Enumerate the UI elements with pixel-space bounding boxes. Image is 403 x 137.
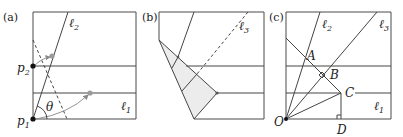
point-p1: [30, 116, 35, 121]
fold-point-dot: [215, 91, 218, 94]
origami-construction-figure: (a) θ p2 p1 ℓ2 ℓ1 (b): [0, 0, 403, 137]
panel-b-label: (b): [142, 11, 158, 24]
grey-dot-p1-image: [87, 90, 92, 95]
panel-a: (a) θ p2 p1 ℓ2 ℓ1: [3, 11, 136, 130]
label-p1: p1: [17, 114, 30, 130]
right-angle-marker-D: [337, 115, 341, 119]
label-l1: ℓ1: [374, 99, 384, 115]
theta-label: θ: [46, 100, 54, 114]
label-C: C: [345, 86, 354, 100]
label-l1: ℓ1: [121, 99, 131, 115]
point-p2: [30, 63, 35, 68]
label-l2: ℓ2: [322, 17, 332, 33]
panel-c: (c) ℓ2 ℓ3 ℓ1 A B C O D: [269, 11, 391, 137]
panel-a-label: (a): [3, 11, 18, 24]
panel-b: (b) ℓ3: [142, 11, 264, 119]
label-A: A: [306, 49, 316, 63]
grey-dot-p2-image: [49, 53, 54, 58]
folded-flap-shading: [159, 40, 217, 119]
point-O: [284, 117, 288, 121]
label-p2: p2: [17, 61, 30, 77]
label-O: O: [274, 115, 284, 129]
label-l3: ℓ3: [239, 19, 249, 35]
label-l2: ℓ2: [69, 16, 79, 32]
panel-c-label: (c): [269, 11, 284, 24]
segment-OC: [286, 93, 341, 119]
line-l2-remnant: [178, 12, 194, 57]
label-D: D: [336, 123, 347, 137]
crease-intersection-dot: [177, 56, 180, 59]
label-l3: ℓ3: [379, 17, 389, 33]
label-B: B: [329, 68, 339, 82]
